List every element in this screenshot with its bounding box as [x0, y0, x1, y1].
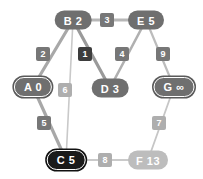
- graph-node-b[interactable]: B 2: [55, 11, 92, 30]
- edge-weight-a-c[interactable]: 5: [37, 116, 51, 130]
- edge-weight-b-c[interactable]: 6: [58, 83, 72, 97]
- graph-node-label: A 0: [24, 81, 42, 93]
- graph-node-a[interactable]: A 0: [14, 77, 52, 97]
- edge-weight-e-g[interactable]: 9: [156, 47, 170, 61]
- edge-weight-b-a[interactable]: 2: [36, 47, 50, 61]
- graph-diagram-canvas: B 2E 5A 0D 3G ∞C 5F 13321649578: [0, 0, 203, 179]
- graph-node-label: F 13: [136, 154, 160, 166]
- graph-node-label: D 3: [101, 82, 120, 94]
- edge-weight-c-f[interactable]: 8: [98, 153, 112, 167]
- graph-node-g[interactable]: G ∞: [154, 77, 195, 97]
- graph-node-label: G ∞: [164, 81, 185, 93]
- graph-node-label: E 5: [137, 14, 155, 26]
- edge-weight-g-f[interactable]: 7: [152, 116, 166, 130]
- edge-weight-b-e[interactable]: 3: [100, 13, 114, 27]
- graph-node-f[interactable]: F 13: [128, 151, 168, 170]
- edge-weight-e-d[interactable]: 4: [115, 47, 129, 61]
- graph-node-c[interactable]: C 5: [47, 150, 86, 170]
- graph-node-label: B 2: [64, 14, 83, 26]
- graph-node-label: C 5: [57, 154, 76, 166]
- graph-node-e[interactable]: E 5: [128, 11, 164, 30]
- edge-weight-b-d[interactable]: 1: [78, 47, 92, 61]
- graph-node-d[interactable]: D 3: [92, 79, 129, 98]
